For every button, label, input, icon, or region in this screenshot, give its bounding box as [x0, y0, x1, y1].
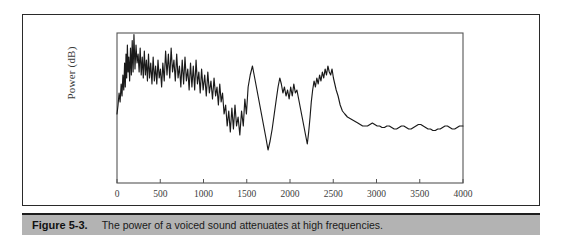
x-tick-label: 1000: [194, 189, 213, 199]
x-tick-label: 3500: [410, 189, 429, 199]
spectrum-curve: [117, 35, 463, 151]
figure-outer-box: 05001000150020002500300035004000 Power (…: [22, 14, 540, 206]
x-tick-label: 2000: [281, 189, 300, 199]
spectrum-line: [117, 35, 463, 151]
y-axis-label: Power (dB): [65, 13, 77, 133]
x-tick-label: 500: [153, 189, 168, 199]
x-tick-label: 3000: [367, 189, 386, 199]
x-axis-ticks: 05001000150020002500300035004000: [115, 179, 473, 199]
spectrum-plot-svg: 05001000150020002500300035004000: [23, 15, 541, 207]
figure-caption-label: Figure 5-3.: [22, 219, 88, 231]
x-tick-label: 0: [115, 189, 120, 199]
x-tick-label: 1500: [237, 189, 256, 199]
figure-root: 05001000150020002500300035004000 Power (…: [0, 0, 561, 235]
figure-caption-text: The power of a voiced sound attenuates a…: [88, 219, 383, 231]
plot-area: 05001000150020002500300035004000 Power (…: [23, 15, 541, 207]
x-tick-label: 4000: [454, 189, 473, 199]
x-tick-label: 2500: [324, 189, 343, 199]
figure-caption-bar: Figure 5-3. The power of a voiced sound …: [22, 213, 540, 235]
